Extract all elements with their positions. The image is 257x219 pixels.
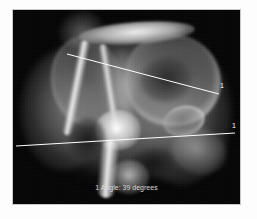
bone-dark-notch <box>129 144 178 181</box>
bone-obturator-foramen-left <box>65 115 109 164</box>
film-grain-overlay <box>13 10 240 204</box>
measurement-overlay <box>13 10 240 204</box>
bone-ischium-right <box>165 120 232 181</box>
soft-tissue-stalk <box>54 10 108 55</box>
soft-tissue-silhouette <box>27 18 223 196</box>
radiograph-canvas[interactable]: 1 1 1 Angle: 39 degrees <box>13 10 240 204</box>
soft-tissue-lobe-right <box>131 44 231 184</box>
measurement-line-b[interactable] <box>16 133 235 146</box>
bone-sacrum <box>107 49 142 121</box>
radiograph-frame: 1 1 1 Angle: 39 degrees <box>12 9 241 205</box>
soft-tissue-lobe-left <box>21 50 107 170</box>
measurement-label-line-b: 1 <box>232 122 236 129</box>
bone-ilium-wing-right <box>120 29 225 131</box>
bone-pubic-ramus-left <box>62 40 90 136</box>
bone-obturator-foramen-right <box>138 55 194 106</box>
bone-iliac-crest <box>78 18 195 48</box>
measurement-label-line-a: 1 <box>220 82 224 89</box>
bone-acetabulum-right <box>160 101 208 140</box>
radiograph-viewer: 1 1 1 Angle: 39 degrees <box>0 0 257 219</box>
angle-measurement-caption: 1 Angle: 39 degrees <box>13 184 240 192</box>
measurement-line-a[interactable] <box>67 54 219 94</box>
bone-femoral-head <box>95 110 141 150</box>
bone-pubic-ramus-right <box>98 44 121 134</box>
bone-ilium-wing-left <box>45 32 127 131</box>
